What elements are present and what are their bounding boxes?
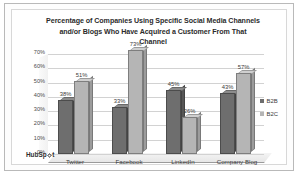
x-axis-category-label: Twitter bbox=[66, 158, 84, 165]
bar-front-face bbox=[112, 107, 127, 154]
legend-label: B2B bbox=[267, 98, 278, 104]
hubspot-label-part1: HubSp bbox=[26, 151, 47, 158]
bar-front-face bbox=[166, 90, 181, 154]
bar-b2c-facebook: 73% bbox=[128, 50, 143, 154]
legend-swatch-icon bbox=[260, 99, 264, 103]
data-label: 43% bbox=[222, 84, 234, 90]
bar-group: 43%57%Company Blog bbox=[210, 54, 264, 154]
legend-item-b2c: B2C bbox=[260, 111, 278, 117]
y-axis-tick-label: 70% bbox=[34, 49, 45, 55]
y-axis-tick-label: 10% bbox=[34, 135, 45, 141]
legend-swatch-icon bbox=[260, 112, 264, 116]
bar-b2b-facebook: 33% bbox=[112, 107, 127, 154]
x-axis-category-label: LinkedIn bbox=[171, 158, 194, 165]
y-axis-tick-label: 30% bbox=[34, 106, 45, 112]
legend-item-b2b: B2B bbox=[260, 98, 278, 104]
bar-b2c-twitter: 51% bbox=[74, 81, 89, 154]
chart-inner-border: Percentage of Companies Using Specific S… bbox=[11, 9, 287, 165]
data-label: 51% bbox=[76, 72, 88, 78]
bar-b2b-twitter: 38% bbox=[58, 100, 73, 154]
gridline bbox=[48, 154, 264, 155]
bar-group: 33%73%Facebook bbox=[102, 54, 156, 154]
bar-front-face bbox=[74, 81, 89, 154]
x-axis-category-label: Facebook bbox=[115, 158, 142, 165]
y-axis-tick-label: 60% bbox=[34, 63, 45, 69]
data-label: 38% bbox=[60, 91, 72, 97]
bar-front-face bbox=[182, 117, 197, 154]
data-label: 45% bbox=[168, 81, 180, 87]
chart-title: Percentage of Companies Using Specific S… bbox=[26, 16, 280, 48]
hubspot-logo: HubSp t bbox=[26, 151, 54, 158]
bar-b2b-linkedin: 45% bbox=[166, 90, 181, 154]
x-axis-category-label: Company Blog bbox=[217, 158, 258, 165]
plot-area: 0%10%20%30%40%50%60%70% 38%51%Twitter33%… bbox=[48, 54, 264, 154]
bar-front-face bbox=[128, 50, 143, 154]
data-label: 73% bbox=[130, 41, 142, 47]
bar-side-face bbox=[143, 45, 147, 152]
bar-b2b-company-blog: 43% bbox=[220, 93, 235, 154]
chart-legend: B2BB2C bbox=[260, 98, 278, 124]
chart-title-line-1: Percentage of Companies Using Specific S… bbox=[26, 16, 280, 27]
y-axis-tick-label: 20% bbox=[34, 120, 45, 126]
data-label: 57% bbox=[238, 64, 250, 70]
bar-side-face bbox=[89, 76, 93, 152]
bar-front-face bbox=[58, 100, 73, 154]
chart-frame: Percentage of Companies Using Specific S… bbox=[4, 3, 294, 171]
sprocket-icon bbox=[47, 152, 52, 157]
y-axis-tick-label: 40% bbox=[34, 92, 45, 98]
bar-side-face bbox=[251, 67, 255, 152]
bar-front-face bbox=[220, 93, 235, 154]
bar-b2c-company-blog: 57% bbox=[236, 73, 251, 154]
hubspot-label-part2: t bbox=[52, 151, 54, 158]
chart-title-line-3: Channel bbox=[26, 37, 280, 48]
bar-b2c-linkedin: 26% bbox=[182, 117, 197, 154]
bar-group: 38%51%Twitter bbox=[48, 54, 102, 154]
data-label: 33% bbox=[114, 98, 126, 104]
chart-title-line-2: and/or Blogs Who Have Acquired a Custome… bbox=[26, 27, 280, 38]
bar-group: 45%26%LinkedIn bbox=[156, 54, 210, 154]
legend-label: B2C bbox=[267, 111, 278, 117]
bar-front-face bbox=[236, 73, 251, 154]
y-axis-tick-label: 50% bbox=[34, 78, 45, 84]
data-label: 26% bbox=[184, 108, 196, 114]
